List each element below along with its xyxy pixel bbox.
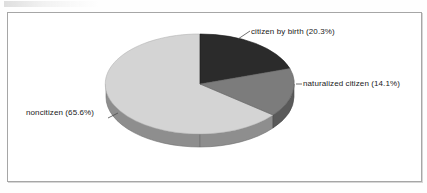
pie-chart-plot-area: citizen by birth (20.3%) naturalized cit… [0, 0, 427, 193]
leader-line-citizen-by-birth [238, 31, 250, 39]
pie-label-noncitizen: noncitizen (65.6%) [26, 108, 94, 118]
scanned-page-background: citizen by birth (20.3%) naturalized cit… [0, 0, 427, 193]
pie-chart-graphic [0, 0, 427, 193]
pie-label-citizen-by-birth: citizen by birth (20.3%) [251, 27, 335, 37]
pie-label-naturalized-citizen: naturalized citizen (14.1%) [303, 79, 400, 89]
